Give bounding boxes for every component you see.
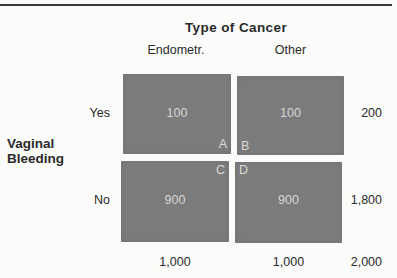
- top-rule: [0, 4, 392, 6]
- cell-d: 900 D: [235, 162, 342, 243]
- row-axis-label-line1: Vaginal: [7, 136, 64, 151]
- cell-d-letter: D: [239, 163, 248, 177]
- cell-c-letter: C: [216, 163, 225, 177]
- cell-c-value: 900: [121, 193, 229, 207]
- cell-a-value: 100: [123, 106, 231, 120]
- cell-b: 100 B: [237, 76, 344, 155]
- cell-b-letter: B: [241, 139, 249, 153]
- column-header-other: Other: [237, 43, 344, 57]
- column-axis-title: Type of Cancer: [125, 20, 347, 35]
- row-header-yes: Yes: [70, 106, 110, 120]
- cell-d-value: 900: [235, 193, 342, 207]
- row-axis-label-line2: Bleeding: [7, 151, 64, 166]
- row-axis-label: Vaginal Bleeding: [7, 136, 64, 166]
- row-header-no: No: [70, 193, 110, 207]
- cell-c: 900 C: [121, 161, 229, 242]
- column-total-endometrial: 1,000: [121, 255, 229, 269]
- row-total-no: 1,800: [332, 193, 382, 207]
- cell-a: 100 A: [123, 74, 231, 154]
- column-total-other: 1,000: [235, 255, 342, 269]
- column-header-endometrial: Endometr.: [123, 43, 229, 57]
- row-total-yes: 200: [332, 106, 382, 120]
- cell-b-value: 100: [237, 106, 344, 120]
- grand-total: 2,000: [332, 255, 382, 269]
- cell-a-letter: A: [219, 137, 227, 151]
